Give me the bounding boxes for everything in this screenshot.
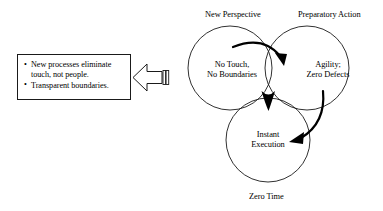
label-preparatory-action: Preparatory Action <box>298 10 361 20</box>
circle-text-line: No Touch, <box>197 60 267 70</box>
circle-text-new-perspective: No Touch, No Boundaries <box>197 60 267 80</box>
circle-text-line: Instant <box>235 130 301 140</box>
diagram-canvas: New processes eliminate touch, not peopl… <box>0 0 383 211</box>
block-arrow-left-icon <box>132 55 170 100</box>
label-zero-time: Zero Time <box>249 192 284 202</box>
venn-text-layer: New Perspective Preparatory Action Zero … <box>183 8 383 208</box>
circle-text-line: Agility; <box>295 60 361 70</box>
circle-text-line: Execution <box>235 140 301 150</box>
circle-text-line: Zero Defects <box>295 70 361 80</box>
label-new-perspective: New Perspective <box>205 10 261 20</box>
callout-bullet-list: New processes eliminate touch, not peopl… <box>18 55 130 91</box>
circle-text-line: No Boundaries <box>197 70 267 80</box>
callout-bullet-item: New processes eliminate touch, not peopl… <box>24 60 126 81</box>
circle-text-preparatory-action: Agility; Zero Defects <box>295 60 361 80</box>
circle-text-zero-time: Instant Execution <box>235 130 301 150</box>
callout-bullet-item: Transparent boundaries. <box>24 81 126 91</box>
callout-box: New processes eliminate touch, not peopl… <box>17 54 131 100</box>
